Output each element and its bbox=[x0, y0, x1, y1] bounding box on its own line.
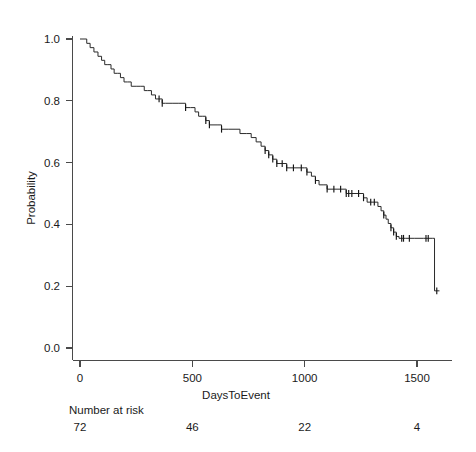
survival-curve bbox=[80, 39, 439, 291]
y-axis-tick-labels: 0.00.20.40.60.81.0 bbox=[44, 33, 61, 354]
censoring-marks bbox=[159, 96, 437, 295]
x-axis-tick-labels: 050010001500 bbox=[77, 372, 430, 384]
survival-plot-svg: 0.00.20.40.60.81.0 050010001500 DaysToEv… bbox=[0, 0, 476, 452]
y-tick-label: 0.6 bbox=[44, 157, 60, 169]
x-tick-label: 1500 bbox=[404, 372, 430, 384]
y-tick-label: 1.0 bbox=[44, 33, 60, 45]
risk-count: 72 bbox=[74, 421, 87, 433]
risk-table-values: 7246224 bbox=[74, 421, 421, 433]
y-axis-title: Probability bbox=[25, 171, 37, 225]
y-axis-ticks bbox=[66, 39, 73, 348]
y-tick-label: 0.4 bbox=[44, 218, 61, 230]
risk-table-label: Number at risk bbox=[69, 404, 144, 416]
x-tick-label: 500 bbox=[183, 372, 202, 384]
risk-count: 22 bbox=[298, 421, 311, 433]
x-tick-label: 0 bbox=[77, 372, 83, 384]
y-tick-label: 0.0 bbox=[44, 342, 60, 354]
x-tick-label: 1000 bbox=[292, 372, 318, 384]
x-axis-ticks bbox=[80, 361, 417, 368]
y-tick-label: 0.8 bbox=[44, 95, 60, 107]
kaplan-meier-chart: 0.00.20.40.60.81.0 050010001500 DaysToEv… bbox=[0, 0, 476, 452]
y-tick-label: 0.2 bbox=[44, 280, 60, 292]
risk-count: 46 bbox=[186, 421, 199, 433]
risk-count: 4 bbox=[414, 421, 421, 433]
x-axis-title: DaysToEvent bbox=[202, 389, 271, 401]
